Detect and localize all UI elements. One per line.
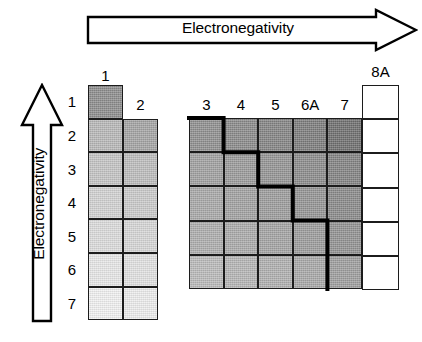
cell-group-3-period-2: [189, 118, 224, 152]
cell-group-1-period-7: [88, 287, 123, 321]
cell-group-5-period-2: [258, 118, 293, 152]
cell-group-7-period-6: [327, 255, 362, 289]
top-arrow-label: Electronegativity: [88, 20, 388, 36]
cell-group-8A-period-6: [362, 256, 399, 290]
group-header-1: 1: [74, 68, 137, 83]
cell-group-2-period-2: [123, 119, 158, 153]
cell-group-5-period-4: [258, 186, 293, 220]
cell-group-4-period-2: [224, 118, 259, 152]
cell-group-6A-period-4: [293, 186, 328, 220]
cell-group-8A-period-5: [362, 222, 399, 256]
cell-group-4-period-5: [224, 221, 259, 255]
cell-group-6A-period-3: [293, 152, 328, 186]
figure-canvas: Electronegativity Electronegativity 1234…: [0, 0, 422, 342]
cell-group-8A-period-3: [362, 153, 399, 187]
cell-group-1-period-6: [88, 253, 123, 287]
cell-group-2-period-3: [123, 152, 158, 186]
cell-group-2-period-6: [123, 253, 158, 287]
cell-group-5-period-6: [258, 255, 293, 289]
cell-group-4-period-4: [224, 186, 259, 220]
period-label-2: 2: [56, 128, 76, 143]
cell-group-3-period-6: [189, 255, 224, 289]
cell-group-5-period-3: [258, 152, 293, 186]
cell-group-5-period-5: [258, 221, 293, 255]
group-header-2: 2: [109, 97, 172, 112]
cell-group-3-period-5: [189, 221, 224, 255]
cell-group-6A-period-6: [293, 255, 328, 289]
cell-group-2-period-7: [123, 287, 158, 321]
cell-group-2-period-5: [123, 219, 158, 253]
cell-group-7-period-2: [327, 118, 362, 152]
cell-group-1-period-3: [88, 152, 123, 186]
cell-group-4-period-6: [224, 255, 259, 289]
period-label-7: 7: [56, 296, 76, 311]
cell-group-2-period-4: [123, 186, 158, 220]
period-label-5: 5: [56, 229, 76, 244]
cell-group-3-period-3: [189, 152, 224, 186]
cell-group-6A-period-2: [293, 118, 328, 152]
group-header-8A: 8A: [348, 64, 413, 79]
cell-group-4-period-3: [224, 152, 259, 186]
cell-group-8A-period-2: [362, 119, 399, 153]
period-label-3: 3: [56, 162, 76, 177]
cell-group-3-period-4: [189, 186, 224, 220]
cell-group-1-period-5: [88, 219, 123, 253]
left-arrow-label: Electronegativity: [31, 89, 47, 319]
cell-group-7-period-3: [327, 152, 362, 186]
cell-group-7-period-5: [327, 221, 362, 255]
group-header-7: 7: [313, 97, 376, 112]
period-label-6: 6: [56, 262, 76, 277]
cell-group-7-period-4: [327, 186, 362, 220]
cell-group-1-period-4: [88, 186, 123, 220]
cell-group-1-period-2: [88, 119, 123, 153]
period-label-1: 1: [56, 94, 76, 109]
cell-group-8A-period-4: [362, 188, 399, 222]
period-label-4: 4: [56, 195, 76, 210]
cell-group-6A-period-5: [293, 221, 328, 255]
